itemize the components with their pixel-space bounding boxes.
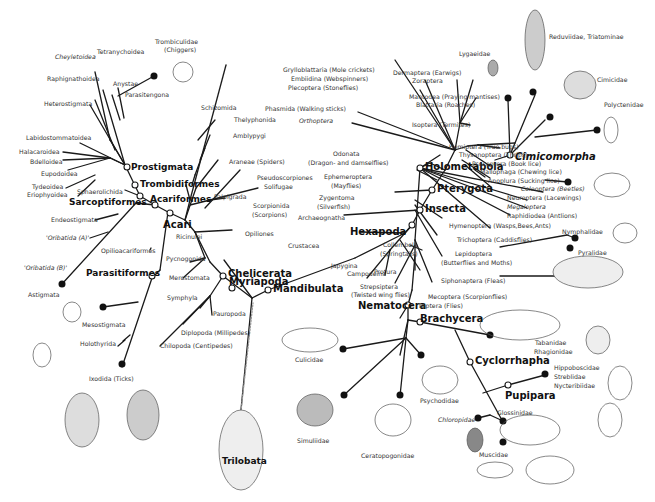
clade-myriapoda: Myriapoda	[229, 276, 289, 287]
label-psychodidae: Psychodidae	[420, 397, 459, 404]
clade-insecta: Insecta	[425, 203, 466, 214]
label-blattaria: Blattaria (Roaches)	[416, 101, 475, 108]
label-heterostigmata: Heterostigmata	[44, 100, 92, 107]
label-oribatida-a: 'Oribatida (A)'	[46, 234, 89, 241]
label-mantodea: Mantodea (Praying mantises)	[409, 93, 500, 100]
phylogeny-diagram: Mandibulata Chelicerata Myriapoda Hexapo…	[0, 0, 655, 502]
label-psocoptera: Psocoptera (Book lice)	[472, 160, 541, 167]
label-lepidoptera-common: (Butterflies and Moths)	[441, 259, 512, 266]
label-zoraptera: Zoraptera	[412, 77, 443, 84]
clade-trombidiformes: Trombidiformes	[140, 179, 220, 189]
label-hippoboscidae: Hippoboscidae	[554, 364, 600, 371]
label-anystae: Anystae	[113, 80, 138, 87]
clade-parasitiformes: Parasitiformes	[86, 268, 160, 278]
label-embiidina: Embiidina (Webspinners)	[291, 75, 368, 82]
label-coleoptera: Coleoptera (Beetles)	[521, 185, 585, 192]
label-scorpions: (Scorpions)	[252, 211, 287, 218]
label-oribatida-b: 'Oribatida (B)'	[24, 264, 67, 271]
label-mecoptera: Mecoptera (Scorpionflies)	[428, 293, 507, 300]
label-symphyla: Symphyla	[167, 294, 198, 301]
label-amblypygi: Amblypygi	[233, 132, 266, 139]
label-tetranychoidea: Tetranychoidea	[97, 48, 144, 55]
label-dermaptera: Dermaptera (Earwigs)	[393, 69, 461, 76]
label-archaeognatha: Archaeognatha	[298, 214, 345, 221]
label-mallophaga: Mallophaga (Chewing lice)	[480, 168, 562, 175]
label-ceratopogonidae: Ceratopogonidae	[361, 452, 414, 459]
label-protura: Protura	[374, 268, 397, 275]
label-hymenoptera: Hymenoptera (Wasps,Bees,Ants)	[449, 222, 551, 229]
clade-trilobata: Trilobata	[222, 456, 267, 466]
label-strepsiptera: Strepsiptera	[360, 283, 398, 290]
label-eriophyoidea: Eriophyoidea	[27, 191, 68, 198]
label-rhagionidae: Rhagionidae	[534, 348, 573, 355]
label-anoplura: Anoplura (Sucking lice)	[488, 177, 560, 184]
label-hemiptera: Hemiptera (True bugs)	[449, 143, 519, 150]
label-strepsiptera-common: (Twisted wing flies)	[351, 291, 410, 298]
label-megaloptera: Megaloptera	[507, 203, 546, 210]
label-diplopoda: Diplopoda (Millipedes)	[181, 329, 250, 336]
label-silverfish: (Silverfish)	[317, 203, 350, 210]
clade-cyclorrhapha: Cyclorrhapha	[475, 355, 550, 366]
label-cimicidae: Cimicidae	[597, 76, 627, 83]
label-pseudoscorpiones: Pseudoscorpiones	[257, 174, 313, 181]
label-mesostigmata: Mesostigmata	[82, 321, 126, 328]
label-neuroptera: Neuroptera (Lacewings)	[507, 194, 581, 201]
label-siphonaptera: Siphonaptera (Fleas)	[441, 277, 505, 284]
clade-brachycera: Brachycera	[420, 313, 483, 324]
label-thysanoptera: Thysanoptera (Thrips)	[459, 151, 528, 158]
clade-acari: Acari	[163, 219, 192, 230]
clade-sarcoptiformes: Sarcoptiformes	[69, 197, 147, 207]
clade-prostigmata: Prostigmata	[131, 162, 193, 172]
label-crustacea: Crustacea	[288, 242, 319, 249]
label-eupodoidea: Eupodoidea	[41, 170, 78, 177]
label-reduviidae: Reduviidae, Triatominae	[549, 33, 624, 40]
label-solifugae: Solifugae	[264, 183, 293, 190]
label-orthoptera: Orthoptera	[299, 117, 333, 124]
label-thelyphonida: Thelyphonida	[234, 116, 276, 123]
label-endeostigmata: Endeostigmata	[51, 216, 98, 223]
label-palpigrada: Palpigrada	[214, 193, 247, 200]
label-lepidoptera: Lepidoptera	[455, 250, 492, 257]
clade-pupipara: Pupipara	[505, 390, 556, 401]
label-pycnogonida: Pycnogonida	[166, 255, 206, 262]
label-polyctenidae: Polyctenidae	[604, 101, 643, 108]
label-plecoptera: Plecoptera (Stoneflies)	[288, 84, 358, 91]
label-schizomida: Schizomida	[201, 104, 236, 111]
label-pyralidae: Pyralidae	[578, 249, 607, 256]
label-araneae: Araneae (Spiders)	[229, 158, 285, 165]
label-odonata: Odonata	[333, 150, 360, 157]
label-chiggers: (Chiggers)	[164, 46, 196, 53]
label-japygina: Japygina	[331, 262, 358, 269]
label-astigmata: Astigmata	[28, 291, 60, 298]
label-trombiculidae: Trombiculidae	[155, 38, 198, 45]
label-diptera: Diptera (Flies)	[419, 302, 463, 309]
clade-pterygota: Pterygota	[437, 183, 493, 194]
label-lygaeidae: Lygaeidae	[459, 50, 490, 57]
label-holothyrida: Holothyrida	[80, 340, 116, 347]
label-isoptera: Isoptera (Termites)	[412, 121, 470, 128]
label-labidostommatoidea: Labidostommatoidea	[26, 134, 91, 141]
label-halacaroidea: Halacaroidea	[19, 148, 60, 155]
label-sphaerolichida: Sphaerolichida	[77, 188, 123, 195]
label-springtails: (Springtails)	[380, 250, 418, 257]
label-nycteribiidae: Nycteribiidae	[554, 382, 595, 389]
label-chloropidae: Chloropidae	[438, 416, 475, 423]
label-ricinulei: Ricinulei	[176, 233, 202, 240]
label-merostomata: Merostomata	[169, 274, 210, 281]
label-grylloblattaria: Grylloblattaria (Mole crickets)	[283, 66, 375, 73]
label-ephemeroptera: Ephemeroptera	[324, 173, 372, 180]
label-tydeoidea: Tydeoidea	[32, 183, 63, 190]
label-odonata-common: (Dragon- and damselflies)	[308, 159, 389, 166]
label-nymphalidae: Nymphalidae	[562, 228, 603, 235]
label-tabanidae: Tabanidae	[535, 339, 566, 346]
label-collembola: Collembola	[383, 241, 418, 248]
label-trichoptera: Trichoptera (Caddisflies)	[457, 236, 532, 243]
label-bdelloidea: Bdelloidea	[30, 158, 62, 165]
label-cheyletoidea: Cheyletoidea	[55, 53, 96, 60]
label-pauropoda: Pauropoda	[213, 310, 246, 317]
label-chilopoda: Chilopoda (Centipedes)	[160, 342, 233, 349]
clade-nematocera: Nematocera	[358, 300, 426, 311]
label-mayflies: (Mayflies)	[331, 182, 361, 189]
label-simuliidae: Simuliidae	[297, 437, 329, 444]
label-zygentoma: Zygentoma	[319, 194, 355, 201]
